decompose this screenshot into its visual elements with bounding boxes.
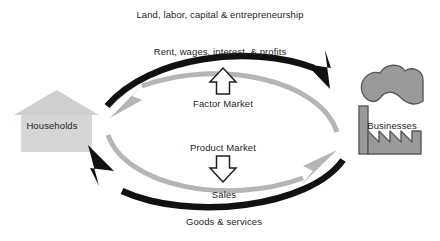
factory-icon [359, 65, 423, 154]
circular-flow-diagram: Land, labor, capital & entrepreneurship … [0, 0, 440, 241]
actor-label-households: Households [26, 121, 77, 131]
factory-smoke [361, 65, 423, 104]
factory-building [368, 131, 421, 154]
actor-label-businesses: Businesses [367, 121, 417, 131]
market-label-product-market: Product Market [190, 143, 256, 153]
down-arrow-icon [210, 156, 236, 182]
flow-label-resources: Land, labor, capital & entrepreneurship [136, 10, 303, 20]
market-label-factor-market: Factor Market [193, 99, 253, 109]
flow-label-income: Rent, wages, interest, & profits [154, 47, 287, 57]
house-roof [14, 90, 99, 115]
flow-label-goods-services: Goods & services [186, 217, 262, 227]
flow-goods-arrowhead [88, 145, 114, 186]
flow-label-sales: Sales [212, 190, 236, 200]
house-body [21, 112, 92, 152]
